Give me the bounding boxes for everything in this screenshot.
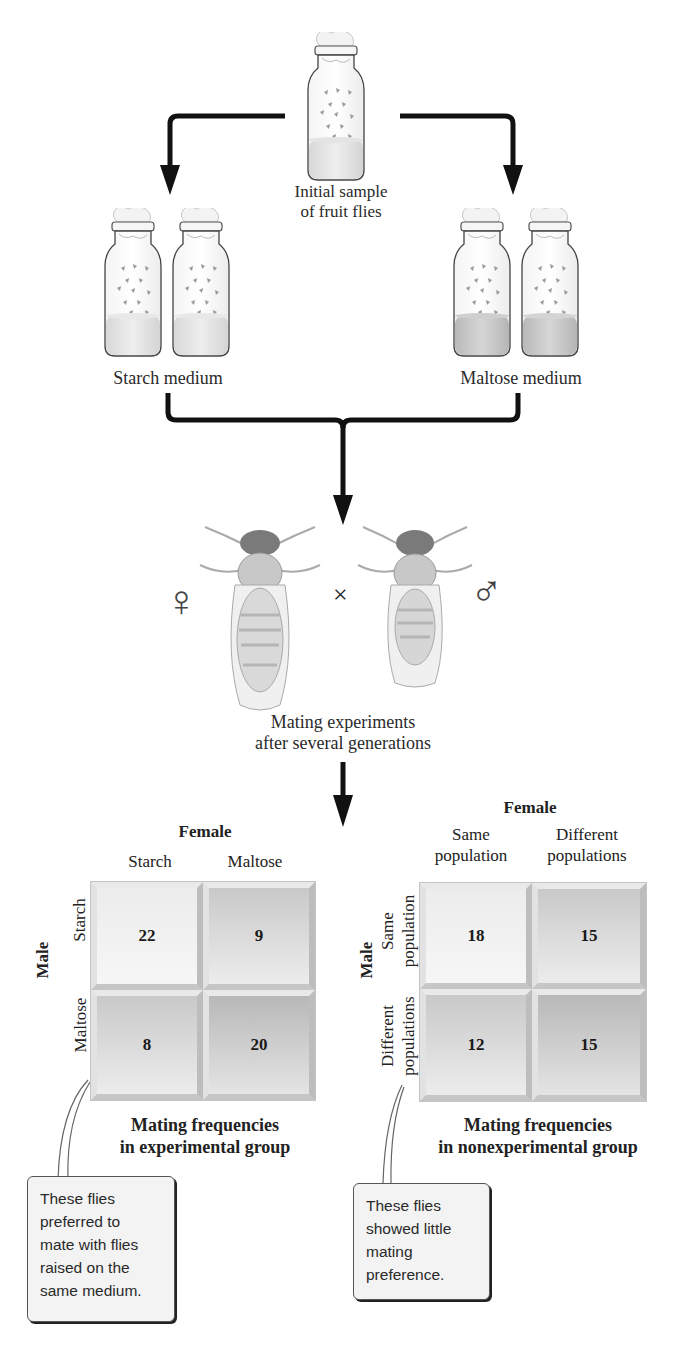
nonexp-row-header-same: Same population (377, 876, 419, 986)
exp-caption: Mating frequencies in experimental group (80, 1114, 330, 1158)
exp-callout-line: These flies (40, 1187, 164, 1210)
cross-symbol-icon: × (333, 580, 348, 610)
nonexp-callout-line: These flies (366, 1194, 479, 1217)
exp-col-header-maltose: Maltose (200, 852, 310, 872)
exp-female-axis-label: Female (155, 822, 255, 842)
initial-label-line-1: Initial sample (251, 182, 431, 202)
exp-col-header-starch: Starch (105, 852, 195, 872)
starch-medium-label: Starch medium (88, 368, 248, 388)
exp-callout-line: mate with flies (40, 1233, 164, 1256)
mating-label-line-2: after several generations (193, 733, 493, 754)
exp-cell-starch-starch: 22 (91, 882, 203, 990)
nonexp-col-header-line: population (415, 845, 527, 866)
nonexp-col-header-line: populations (527, 845, 647, 866)
arrow-to-maltose (400, 116, 513, 170)
maltose-bottle-2-icon (520, 208, 580, 358)
nonexp-row-header-line: populations (398, 976, 419, 1096)
nonexp-cell-different-same: 12 (420, 989, 532, 1101)
nonexperimental-matrix: 18 15 12 15 (419, 882, 647, 1102)
nonexp-col-header-line: Different (527, 824, 647, 845)
male-fly-icon (355, 515, 475, 690)
exp-row-header-starch: Starch (70, 880, 90, 960)
nonexp-row-header-line: population (398, 876, 419, 986)
nonexp-male-axis-label: Male (357, 930, 377, 990)
nonexp-cell-same-different: 15 (532, 883, 646, 989)
nonexp-callout-line: mating (366, 1240, 479, 1263)
initial-bottle-icon (306, 32, 366, 182)
female-symbol-icon: ♀ (165, 580, 198, 624)
maltose-bottle-1-icon (452, 208, 512, 358)
exp-caption-line-2: in experimental group (80, 1136, 330, 1158)
mating-experiments-label: Mating experiments after several generat… (193, 712, 493, 754)
exp-cell-starch-maltose: 9 (203, 882, 315, 990)
nonexp-caption: Mating frequencies in nonexperimental gr… (398, 1114, 678, 1158)
arrowhead-icon (333, 495, 353, 525)
exp-cell-maltose-maltose: 20 (203, 990, 315, 1100)
nonexp-female-axis-label: Female (480, 798, 580, 818)
exp-callout-line: raised on the (40, 1256, 164, 1279)
nonexp-callout-line: showed little (366, 1217, 479, 1240)
nonexp-row-header-line: Same (377, 876, 398, 986)
maltose-medium-label: Maltose medium (436, 368, 606, 388)
initial-label-line-2: of fruit flies (251, 202, 431, 222)
nonexp-col-header-different: Different populations (527, 824, 647, 866)
starch-bottle-1-icon (103, 208, 163, 358)
bracket-connector (168, 393, 343, 500)
exp-cell-maltose-starch: 8 (91, 990, 203, 1100)
arrow-to-starch (170, 116, 285, 170)
exp-callout: These flies preferred to mate with flies… (27, 1176, 175, 1322)
nonexp-caption-line-1: Mating frequencies (398, 1114, 678, 1136)
exp-male-axis-label: Male (33, 930, 53, 990)
nonexp-cell-different-different: 15 (532, 989, 646, 1101)
arrowhead-icon (160, 165, 180, 195)
arrowhead-icon (503, 165, 523, 195)
arrowhead-icon (333, 795, 353, 827)
nonexp-col-header-line: Same (415, 824, 527, 845)
female-fly-icon (195, 515, 325, 715)
nonexp-row-header-different: Different populations (377, 976, 419, 1096)
experimental-matrix: 22 9 8 20 (90, 881, 316, 1101)
nonexp-caption-line-2: in nonexperimental group (398, 1136, 678, 1158)
nonexp-row-header-line: Different (377, 976, 398, 1096)
initial-sample-label: Initial sample of fruit flies (251, 182, 431, 222)
starch-bottle-2-icon (171, 208, 231, 358)
nonexp-col-header-same: Same population (415, 824, 527, 866)
nonexp-callout-line: preference. (366, 1263, 479, 1286)
nonexp-callout: These flies showed little mating prefere… (353, 1183, 490, 1300)
exp-callout-line: preferred to (40, 1210, 164, 1233)
exp-row-header-maltose: Maltose (71, 978, 91, 1073)
mating-label-line-1: Mating experiments (193, 712, 493, 733)
exp-caption-line-1: Mating frequencies (80, 1114, 330, 1136)
nonexp-cell-same-same: 18 (420, 883, 532, 989)
exp-callout-line: same medium. (40, 1279, 164, 1302)
